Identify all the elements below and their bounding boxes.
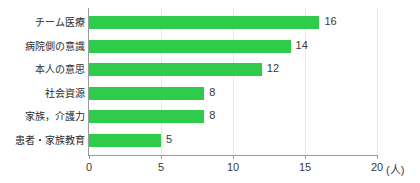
- bar: [89, 16, 319, 29]
- bar: [89, 63, 262, 76]
- x-tick-15: [305, 155, 306, 159]
- x-tick-label: 0: [86, 161, 92, 173]
- chart-row: 14病院側の意識: [89, 40, 377, 53]
- chart-row: 5患者・家族教育: [89, 134, 377, 147]
- x-tick-0: [89, 155, 90, 159]
- bar: [89, 110, 204, 123]
- bar-value-label: 14: [296, 39, 308, 52]
- x-tick-5: [161, 155, 162, 159]
- chart-row: 16チーム医療: [89, 16, 377, 29]
- bar-value-label: 5: [166, 133, 172, 146]
- plot-area: 16チーム医療14病院側の意識12本人の意思8社会資源8家族，介護力5患者・家族…: [89, 8, 377, 155]
- chart-row: 12本人の意思: [89, 63, 377, 76]
- bar-value-label: 8: [209, 86, 215, 99]
- category-label: 患者・家族教育: [3, 134, 85, 147]
- category-label: チーム医療: [3, 16, 85, 29]
- chart-row: 8家族，介護力: [89, 110, 377, 123]
- bar: [89, 87, 204, 100]
- gridline-20: [377, 8, 378, 155]
- x-tick-20: [377, 155, 378, 159]
- bar-value-label: 8: [209, 109, 215, 122]
- bar-value-label: 16: [324, 15, 336, 28]
- category-label: 本人の意思: [3, 63, 85, 76]
- category-label: 家族，介護力: [3, 110, 85, 123]
- x-tick-label: 10: [227, 161, 239, 173]
- category-label: 病院側の意識: [3, 40, 85, 53]
- bar-value-label: 12: [267, 62, 279, 75]
- bar: [89, 40, 291, 53]
- bar-chart: 16チーム医療14病院側の意識12本人の意思8社会資源8家族，介護力5患者・家族…: [0, 0, 420, 183]
- category-label: 社会資源: [3, 87, 85, 100]
- x-tick-label: 15: [299, 161, 311, 173]
- x-tick-label: 5: [158, 161, 164, 173]
- x-tick-label: 20: [371, 161, 383, 173]
- x-tick-10: [233, 155, 234, 159]
- x-axis-unit-label: (人): [386, 161, 404, 177]
- bar: [89, 134, 161, 147]
- chart-row: 8社会資源: [89, 87, 377, 100]
